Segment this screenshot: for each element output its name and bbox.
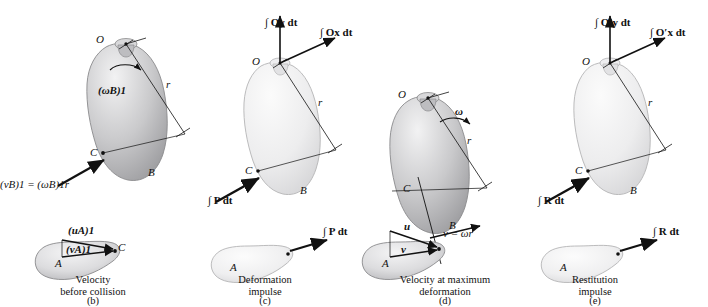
panel-b-label-A: A — [55, 257, 62, 269]
panel-e-art — [541, 16, 672, 283]
panel-c-axis-horizontal: ∫ Ox dt — [320, 26, 352, 38]
panel-c-label-O: O — [252, 55, 260, 67]
panel-b-label-O: O — [96, 33, 104, 45]
panel-d-label-u: u — [404, 220, 410, 232]
panel-b-label-C2: C — [118, 241, 125, 253]
panel-e-label-r: r — [648, 96, 652, 108]
panel-d-label-v: v — [401, 243, 406, 255]
panel-e-tag: (e) — [570, 295, 620, 307]
panel-e-axis-vertical: ∫ O′y dt — [595, 16, 630, 28]
panel-b-label-C: C — [90, 146, 97, 158]
panel-d-label-O: O — [398, 88, 406, 100]
panel-e-label-A: A — [560, 261, 567, 273]
panel-c-label-C: C — [245, 164, 252, 176]
panel-b-label-uA1: (uA)1 — [68, 224, 94, 236]
panel-c-label-B: B — [300, 184, 307, 196]
panel-b-label-vA: (vA)1 — [66, 243, 91, 255]
panel-d-label-r: r — [467, 134, 471, 146]
panel-b-art — [35, 38, 190, 280]
panel-d-label-v-omega-r: v = ωr — [443, 227, 473, 239]
panel-c-impulse-P: ∫ P dt — [208, 194, 232, 206]
panel-d-label-C: C — [403, 182, 410, 194]
panel-b-label-r: r — [166, 78, 170, 90]
panel-d-tag: (d) — [420, 295, 470, 307]
panel-e-axis-horizontal: ∫ O′x dt — [650, 26, 685, 38]
panel-b-label-B: B — [148, 166, 155, 178]
panel-e-label-B: B — [630, 184, 637, 196]
panel-e-impulse-R2: ∫ R dt — [653, 225, 679, 237]
panel-c-axis-vertical: ∫ Oy dt — [265, 16, 297, 28]
panel-b-tag: (b) — [68, 295, 118, 307]
panel-d-art — [362, 92, 492, 280]
panel-d-label-omega: ω — [455, 105, 463, 117]
panel-e-impulse-R: ∫ R dt — [538, 194, 564, 206]
panel-e-label-O: O — [582, 55, 590, 67]
panel-c-impulse-P2: ∫ P dt — [323, 225, 347, 237]
panel-c-caption-line1: Deformation — [200, 274, 330, 286]
panel-d-caption-line1: Velocity at maximum — [375, 274, 515, 286]
panel-b-label-omega-B1: (ωB)1 — [98, 84, 126, 96]
panel-b-caption-line1: Velocity — [28, 274, 158, 286]
panel-c-art — [211, 16, 342, 283]
panel-b-label-vB1: (vB)1 = (ωB)1r — [0, 178, 69, 190]
panel-c-label-A: A — [230, 261, 237, 273]
panel-e-caption-line1: Restitution — [530, 274, 660, 286]
panel-c-label-r: r — [318, 96, 322, 108]
panel-d-label-A: A — [382, 257, 389, 269]
panel-c-tag: (c) — [240, 295, 290, 307]
panel-e-label-C: C — [575, 164, 582, 176]
